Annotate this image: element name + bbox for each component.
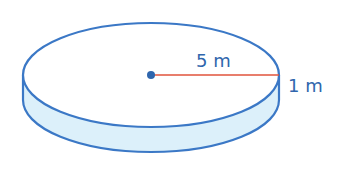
center-point: [147, 71, 155, 79]
cylinder-diagram: 5 m 1 m: [0, 0, 354, 177]
height-label: 1 m: [288, 75, 323, 96]
radius-label: 5 m: [196, 50, 231, 71]
